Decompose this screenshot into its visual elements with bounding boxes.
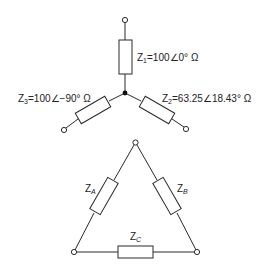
z2-terminal xyxy=(183,126,188,131)
za-wire-top xyxy=(114,145,134,180)
zb-label: ZB xyxy=(177,183,188,198)
z3-value: =100∠−90° Ω xyxy=(28,93,91,104)
zb-subscript: B xyxy=(183,188,188,195)
z1-terminal xyxy=(122,17,127,22)
z3-label: Z3=100∠−90° Ω xyxy=(18,93,91,108)
delta-terminal-right xyxy=(194,249,199,254)
z2-wire-outer xyxy=(172,119,184,127)
za-label: ZA xyxy=(85,183,96,198)
delta-terminal-left xyxy=(71,249,76,254)
za-subscript: A xyxy=(91,188,96,195)
z1-resistor xyxy=(119,40,132,74)
z3-terminal xyxy=(61,127,66,132)
star-junction-dot xyxy=(123,91,128,96)
zc-subscript: C xyxy=(136,236,141,243)
z3-wire-inner xyxy=(109,93,125,101)
z3-wire-outer xyxy=(66,119,78,128)
delta-terminal-top xyxy=(133,140,138,145)
zc-resistor xyxy=(118,246,153,258)
za-wire-bottom xyxy=(75,213,94,250)
z2-value: =63.25∠18.43° Ω xyxy=(172,93,251,104)
zb-wire-top xyxy=(137,145,157,180)
z1-value: =100∠0° Ω xyxy=(147,52,198,63)
z1-label: Z1=100∠0° Ω xyxy=(137,52,198,67)
z2-label: Z2=63.25∠18.43° Ω xyxy=(162,93,251,108)
zc-label: ZC xyxy=(130,231,141,246)
z2-wire-inner xyxy=(125,93,141,101)
star-network xyxy=(61,17,188,132)
circuit-diagram xyxy=(0,0,258,272)
zb-wire-bottom xyxy=(177,213,196,250)
